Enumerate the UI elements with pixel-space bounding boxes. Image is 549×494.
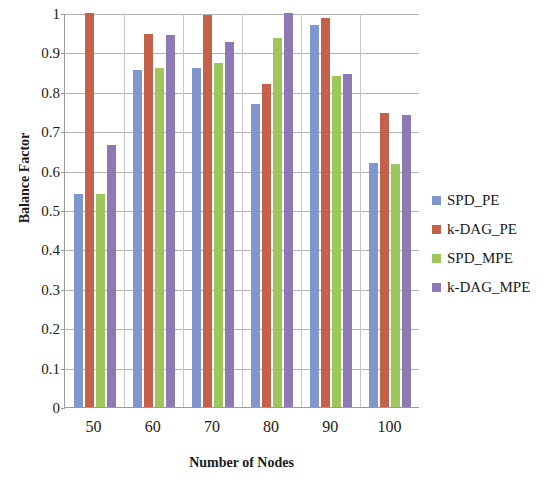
bar[interactable]: [85, 13, 94, 407]
bar[interactable]: [343, 74, 352, 407]
legend-entry[interactable]: SPD_PE: [432, 186, 544, 215]
bar-group: [65, 14, 124, 407]
x-axis-tick-label: 60: [123, 418, 182, 436]
y-axis-tick-label: 0.2: [22, 321, 60, 338]
bar[interactable]: [74, 194, 83, 407]
bar[interactable]: [284, 13, 293, 407]
bar-group: [242, 14, 301, 407]
bar[interactable]: [310, 25, 319, 407]
x-axis-tick-label: 90: [301, 418, 360, 436]
x-axis-title: Number of Nodes: [64, 455, 419, 471]
y-axis-tick-label: 1: [22, 6, 60, 23]
bar[interactable]: [107, 145, 116, 407]
legend-label: k-DAG_PE: [447, 221, 517, 238]
y-axis-tick-labels: 00.10.20.30.40.50.60.70.80.91: [22, 14, 60, 408]
legend-swatch-icon: [432, 196, 441, 205]
x-axis-tick-label: 70: [182, 418, 241, 436]
y-axis-tick-label: 0.6: [22, 163, 60, 180]
y-axis-tick-label: 0.9: [22, 45, 60, 62]
legend-entry[interactable]: SPD_MPE: [432, 244, 544, 273]
bar[interactable]: [391, 164, 400, 407]
legend-label: SPD_MPE: [447, 250, 513, 267]
bar[interactable]: [251, 104, 260, 407]
x-axis-tick-labels: 5060708090100: [64, 418, 419, 436]
y-axis-tick-label: 0.4: [22, 242, 60, 259]
y-axis-tick-label: 0.8: [22, 84, 60, 101]
y-axis-tick-label: 0: [22, 400, 60, 417]
legend-swatch-icon: [432, 225, 441, 234]
y-axis-tick-label: 0.3: [22, 281, 60, 298]
bar-group: [301, 14, 360, 407]
bar[interactable]: [262, 84, 271, 407]
bar[interactable]: [402, 115, 411, 407]
x-axis-tick-label: 50: [64, 418, 123, 436]
y-axis-tick-label: 0.1: [22, 360, 60, 377]
bar-group: [124, 14, 183, 407]
bar[interactable]: [203, 15, 212, 407]
bar[interactable]: [133, 70, 142, 407]
bar-group: [183, 14, 242, 407]
plot-area: [64, 14, 419, 408]
legend-label: k-DAG_MPE: [447, 279, 530, 296]
legend-swatch-icon: [432, 283, 441, 292]
bar[interactable]: [214, 63, 223, 407]
legend-swatch-icon: [432, 254, 441, 263]
y-axis-tick-mark: [61, 408, 65, 409]
bar[interactable]: [369, 163, 378, 407]
bar[interactable]: [144, 34, 153, 407]
legend: SPD_PEk-DAG_PESPD_MPEk-DAG_MPE: [432, 186, 544, 302]
bar[interactable]: [192, 68, 201, 407]
y-axis-tick-label: 0.5: [22, 203, 60, 220]
bar[interactable]: [321, 18, 330, 407]
bar[interactable]: [96, 194, 105, 407]
bar-chart-figure: Balance Factor 00.10.20.30.40.50.60.70.8…: [0, 0, 549, 494]
bars-layer: [65, 14, 419, 407]
bar[interactable]: [155, 68, 164, 407]
x-axis-tick-label: 80: [242, 418, 301, 436]
y-axis-tick-label: 0.7: [22, 124, 60, 141]
legend-label: SPD_PE: [447, 192, 500, 209]
bar-group: [360, 14, 419, 407]
bar[interactable]: [225, 42, 234, 407]
bar[interactable]: [273, 38, 282, 407]
bar[interactable]: [166, 35, 175, 407]
bar[interactable]: [380, 113, 389, 407]
x-axis-tick-label: 100: [360, 418, 419, 436]
legend-entry[interactable]: k-DAG_PE: [432, 215, 544, 244]
legend-entry[interactable]: k-DAG_MPE: [432, 273, 544, 302]
bar[interactable]: [332, 76, 341, 407]
